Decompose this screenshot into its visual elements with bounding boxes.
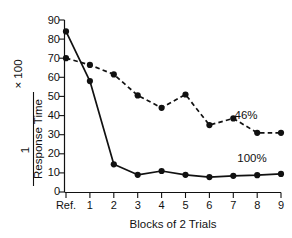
y-tick-label: 80	[48, 33, 60, 45]
y-axis-title: × 100 1 Response Time	[12, 59, 44, 186]
chart-figure: 90 80 70 60 50 40 30 20 10 0	[0, 0, 292, 238]
x-axis-tick-labels: Ref. 1 2 3 4 5 6 7 8 9	[56, 199, 284, 211]
data-point	[87, 62, 93, 68]
data-point	[278, 171, 284, 177]
y-tick-label: 30	[48, 128, 60, 140]
data-point	[87, 78, 93, 84]
x-tick-label: 7	[230, 199, 236, 211]
data-point	[159, 105, 165, 111]
y-tick-label: 60	[48, 71, 60, 83]
y-tick-label: 20	[48, 147, 60, 159]
line-chart: 90 80 70 60 50 40 30 20 10 0	[0, 0, 292, 238]
x-tick-label: 8	[254, 199, 260, 211]
series-label-46-percent: 46%	[234, 109, 257, 121]
y-tick-label: 40	[48, 109, 60, 121]
y-axis-tick-labels: 90 80 70 60 50 40 30 20 10 0	[48, 14, 60, 197]
x-tick-label: 5	[182, 199, 188, 211]
data-point	[182, 172, 188, 178]
x-tick-label: 6	[206, 199, 212, 211]
data-point	[111, 71, 117, 77]
data-point	[254, 130, 260, 136]
x-axis	[65, 193, 282, 199]
data-point	[230, 173, 236, 179]
y-tick-label: 70	[48, 52, 60, 64]
y-tick-label: 10	[48, 166, 60, 178]
x-tick-label: 4	[159, 199, 165, 211]
x-tick-label: 1	[87, 199, 93, 211]
x-axis-title: Blocks of 2 Trials	[130, 218, 217, 230]
y-tick-label: 50	[48, 90, 60, 102]
x-tick-label: Ref.	[56, 199, 76, 211]
data-point	[206, 122, 212, 128]
series-label-100-percent: 100%	[237, 152, 266, 164]
y-tick-label: 0	[54, 185, 60, 197]
data-point	[278, 130, 284, 136]
series-46-percent	[63, 55, 284, 136]
data-point	[135, 172, 141, 178]
y-tick-label: 90	[48, 14, 60, 26]
x-tick-label: 2	[111, 199, 117, 211]
x-tick-label: 9	[278, 199, 284, 211]
data-point	[159, 168, 165, 174]
y-axis-numerator-label: 1	[19, 147, 31, 153]
series-46-percent-line	[66, 58, 281, 133]
data-point	[63, 55, 69, 61]
data-point	[63, 28, 69, 34]
x-tick-label: 3	[135, 199, 141, 211]
y-axis-denominator-label: Response Time	[32, 99, 44, 179]
data-point	[254, 172, 260, 178]
data-point	[135, 92, 141, 98]
data-point	[206, 174, 212, 180]
data-point	[111, 161, 117, 167]
data-point	[182, 91, 188, 97]
y-axis-multiplier-label: × 100	[12, 59, 24, 88]
